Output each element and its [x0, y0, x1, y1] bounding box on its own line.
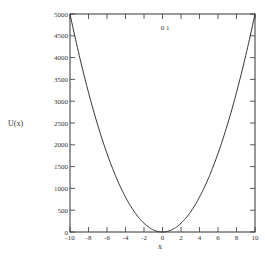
- y-tick-label: 2000: [54, 141, 69, 149]
- y-tick-label: 2500: [54, 120, 69, 128]
- y-tick-label: 0: [65, 229, 69, 237]
- y-tick-label: 4000: [54, 54, 69, 62]
- x-axis-label: x: [158, 242, 162, 251]
- x-tick-label: 2: [179, 234, 183, 242]
- x-tick-label: -8: [86, 234, 92, 242]
- x-tick-label: 6: [216, 234, 220, 242]
- chart: -10-8-6-4-202468100500100015002000250030…: [0, 0, 265, 261]
- x-tick-label: 0: [161, 234, 165, 242]
- x-tick-label: -6: [104, 234, 110, 242]
- x-tick-label: -2: [141, 234, 147, 242]
- y-tick-label: 3500: [54, 76, 69, 84]
- y-tick-label: 3000: [54, 98, 69, 106]
- x-tick-label: 8: [235, 234, 239, 242]
- series-line: [70, 14, 255, 232]
- y-tick-label: 500: [58, 207, 69, 215]
- axis-ticks: -10-8-6-4-202468100500100015002000250030…: [54, 11, 259, 243]
- x-tick-label: -4: [123, 234, 129, 242]
- x-tick-label: 10: [252, 234, 260, 242]
- plot-annotation: 0 1: [161, 24, 170, 32]
- y-tick-label: 4500: [54, 32, 69, 40]
- y-tick-label: 5000: [54, 11, 69, 19]
- axes-box: [70, 14, 255, 232]
- y-tick-label: 1500: [54, 163, 69, 171]
- y-axis-label: U(x): [8, 119, 23, 128]
- x-tick-label: 4: [198, 234, 202, 242]
- plot-frame: [70, 14, 255, 232]
- y-tick-label: 1000: [54, 185, 69, 193]
- data-series: [70, 14, 255, 232]
